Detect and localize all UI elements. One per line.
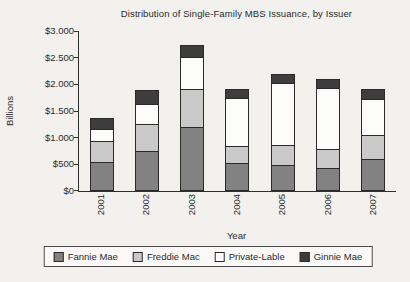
x-tick-label-2001: 2001 bbox=[95, 194, 106, 215]
bar-segment-2004-private-lable bbox=[226, 98, 248, 145]
stacked-bar-2006 bbox=[316, 79, 340, 191]
bar-segment-2006-freddie-mac bbox=[317, 149, 339, 168]
y-tick-mark-500 bbox=[74, 164, 78, 165]
y-tick-label-500: $500 bbox=[28, 158, 74, 169]
bar-segment-2004-freddie-mac bbox=[226, 146, 248, 163]
legend-label-fannie-mae: Fannie Mae bbox=[68, 251, 118, 262]
y-tick-mark-2500 bbox=[74, 57, 78, 58]
bar-slot-2001 bbox=[79, 31, 124, 191]
bar-segment-2004-fannie-mae bbox=[226, 163, 248, 190]
chart-legend: Fannie MaeFreddie MacPrivate-LableGinnie… bbox=[44, 246, 373, 267]
bar-segment-2005-private-lable bbox=[272, 83, 294, 145]
y-tick-mark-3000 bbox=[74, 31, 78, 32]
legend-item-private-lable: Private-Lable bbox=[215, 251, 285, 262]
y-tick-label-3000: $3.000 bbox=[28, 25, 74, 36]
legend-item-fannie-mae: Fannie Mae bbox=[54, 251, 118, 262]
bar-segment-2005-fannie-mae bbox=[272, 165, 294, 190]
bar-segment-2007-fannie-mae bbox=[362, 159, 384, 190]
bar-segment-2006-ginnie-mae bbox=[317, 80, 339, 88]
legend-label-private-lable: Private-Lable bbox=[229, 251, 285, 262]
y-tick-label-0: $0 bbox=[28, 185, 74, 196]
bar-slot-2002 bbox=[124, 31, 169, 191]
bar-slot-2007 bbox=[351, 31, 396, 191]
x-tick-label-2007: 2007 bbox=[367, 194, 378, 215]
bar-segment-2001-freddie-mac bbox=[91, 141, 113, 162]
bar-segment-2002-fannie-mae bbox=[136, 151, 158, 190]
legend-swatch-fannie-mae bbox=[54, 252, 64, 262]
bar-segment-2007-private-lable bbox=[362, 99, 384, 135]
y-tick-label-2500: $2.500 bbox=[28, 52, 74, 63]
legend-swatch-freddie-mac bbox=[133, 252, 143, 262]
x-axis-title: Year bbox=[78, 230, 395, 241]
bar-slot-2006 bbox=[305, 31, 350, 191]
x-axis-tick-labels: 2001200220032004200520062007 bbox=[78, 194, 395, 228]
x-label-slot-2006: 2006 bbox=[304, 194, 349, 228]
bar-segment-2002-private-lable bbox=[136, 104, 158, 124]
legend-label-ginnie-mae: Ginnie Mae bbox=[314, 251, 363, 262]
legend-item-freddie-mac: Freddie Mac bbox=[133, 251, 200, 262]
y-tick-mark-2000 bbox=[74, 84, 78, 85]
bar-segment-2003-freddie-mac bbox=[181, 89, 203, 127]
x-label-slot-2004: 2004 bbox=[214, 194, 259, 228]
y-tick-mark-1000 bbox=[74, 137, 78, 138]
y-axis-title: Billions bbox=[2, 31, 16, 191]
plot-area: $0$500$1.000$1.500$2.000$2.500$3.000 bbox=[78, 31, 396, 192]
bar-segment-2003-fannie-mae bbox=[181, 127, 203, 190]
bar-segment-2002-ginnie-mae bbox=[136, 91, 158, 103]
bar-segment-2006-fannie-mae bbox=[317, 168, 339, 190]
x-tick-label-2003: 2003 bbox=[186, 194, 197, 215]
y-axis-title-text: Billions bbox=[4, 96, 15, 126]
bar-slot-2003 bbox=[170, 31, 215, 191]
x-label-slot-2005: 2005 bbox=[259, 194, 304, 228]
y-tick-label-2000: $2.000 bbox=[28, 78, 74, 89]
y-tick-mark-0 bbox=[74, 190, 78, 191]
stacked-bar-2007 bbox=[361, 89, 385, 191]
stacked-bar-2005 bbox=[271, 74, 295, 191]
bar-slot-2004 bbox=[215, 31, 260, 191]
x-tick-label-2005: 2005 bbox=[276, 194, 287, 215]
bar-segment-2007-freddie-mac bbox=[362, 135, 384, 159]
legend-item-ginnie-mae: Ginnie Mae bbox=[300, 251, 363, 262]
x-label-slot-2001: 2001 bbox=[78, 194, 123, 228]
x-tick-label-2002: 2002 bbox=[140, 194, 151, 215]
x-label-slot-2003: 2003 bbox=[169, 194, 214, 228]
chart-page: Distribution of Single-Family MBS Issuan… bbox=[0, 0, 410, 282]
x-label-slot-2007: 2007 bbox=[350, 194, 395, 228]
y-tick-label-1500: $1.500 bbox=[28, 105, 74, 116]
bar-segment-2001-fannie-mae bbox=[91, 162, 113, 190]
legend-swatch-ginnie-mae bbox=[300, 252, 310, 262]
bar-segment-2001-private-lable bbox=[91, 129, 113, 141]
bars-row bbox=[79, 31, 396, 191]
bar-segment-2003-ginnie-mae bbox=[181, 46, 203, 57]
y-tick-mark-1500 bbox=[74, 111, 78, 112]
bar-segment-2001-ginnie-mae bbox=[91, 119, 113, 129]
x-tick-label-2006: 2006 bbox=[322, 194, 333, 215]
bar-slot-2005 bbox=[260, 31, 305, 191]
bar-segment-2005-ginnie-mae bbox=[272, 75, 294, 83]
chart-title: Distribution of Single-Family MBS Issuan… bbox=[78, 8, 395, 19]
x-tick-label-2004: 2004 bbox=[231, 194, 242, 215]
legend-label-freddie-mac: Freddie Mac bbox=[147, 251, 200, 262]
stacked-bar-2003 bbox=[180, 45, 204, 191]
bar-segment-2004-ginnie-mae bbox=[226, 90, 248, 99]
legend-swatch-private-lable bbox=[215, 252, 225, 262]
bar-segment-2006-private-lable bbox=[317, 88, 339, 149]
stacked-bar-2002 bbox=[135, 90, 159, 191]
bar-segment-2003-private-lable bbox=[181, 57, 203, 89]
stacked-bar-2001 bbox=[90, 118, 114, 191]
bar-segment-2005-freddie-mac bbox=[272, 145, 294, 165]
stacked-bar-2004 bbox=[225, 89, 249, 191]
x-label-slot-2002: 2002 bbox=[123, 194, 168, 228]
bar-segment-2002-freddie-mac bbox=[136, 124, 158, 151]
bar-segment-2007-ginnie-mae bbox=[362, 90, 384, 99]
y-tick-label-1000: $1.000 bbox=[28, 132, 74, 143]
